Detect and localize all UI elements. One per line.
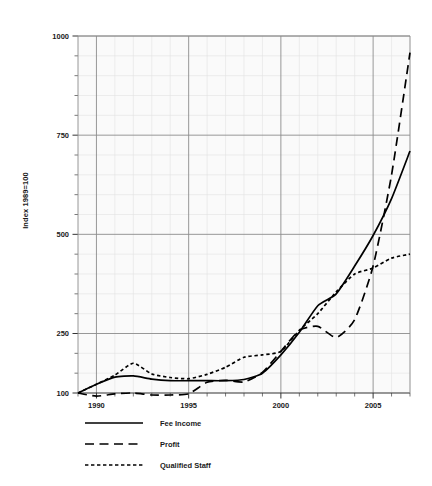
x-tick-label: 2005 — [365, 401, 382, 410]
legend-label: Profit — [160, 440, 180, 449]
y-axis-ticks — [73, 36, 79, 393]
chart-legend: Fee IncomeProfitQualified Staff — [85, 419, 211, 470]
y-tick-label: 750 — [56, 131, 69, 140]
x-axis-tick-labels: 1990199520002005 — [88, 401, 381, 410]
x-tick-label: 2000 — [273, 401, 290, 410]
line-chart: 1002505007501000 1990199520002005 Fee In… — [0, 0, 432, 486]
y-tick-label: 250 — [56, 329, 69, 338]
x-tick-label: 1995 — [180, 401, 197, 410]
y-tick-label: 100 — [56, 389, 69, 398]
y-tick-label: 500 — [56, 230, 69, 239]
y-axis-tick-labels: 1002505007501000 — [52, 32, 69, 398]
y-tick-label: 1000 — [52, 32, 69, 41]
x-tick-label: 1990 — [88, 401, 105, 410]
chart-page: Index 1989=100 1002505007501000 19901995… — [0, 0, 432, 486]
legend-label: Qualified Staff — [160, 461, 211, 470]
legend-label: Fee Income — [160, 419, 201, 428]
